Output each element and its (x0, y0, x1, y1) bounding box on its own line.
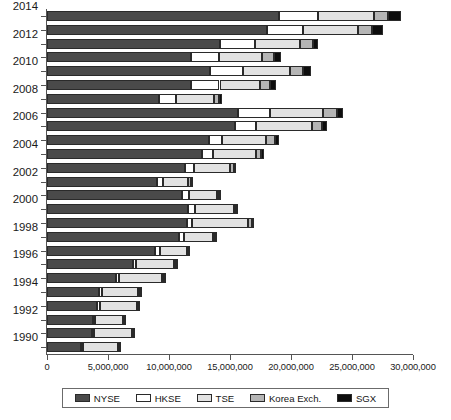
bar-segment-sgx (322, 121, 327, 131)
y-axis-label-1990: 1990 (13, 331, 38, 343)
bar-segment-hkse (279, 11, 318, 21)
bar-segment-sgx (215, 232, 217, 242)
x-tick (291, 355, 292, 360)
legend-swatch-icon (75, 394, 90, 402)
bar-segment-sgx (119, 342, 121, 352)
bar-segment-tse (194, 163, 230, 173)
bar-segment-nyse (47, 177, 157, 187)
bar-segment-sgx (313, 39, 318, 49)
y-tick (41, 251, 46, 252)
bar-segment-tse (195, 204, 234, 214)
bar-segment-nyse (47, 66, 210, 76)
bar-segment-sgx (372, 25, 383, 35)
bar-segment-tse (94, 328, 132, 338)
legend-item-tse[interactable]: TSE (197, 393, 235, 404)
bar-segment-hkse (220, 39, 255, 49)
bar-segment-nyse (47, 218, 187, 228)
y-axis-label-2008: 2008 (13, 83, 38, 95)
bar-segment-korea-exch (260, 80, 270, 90)
bar-segment-sgx (337, 108, 344, 118)
y-axis-label-1998: 1998 (13, 221, 38, 233)
x-axis-tick-label: 0 (44, 362, 49, 372)
y-tick (41, 306, 46, 307)
bar-segment-nyse (47, 301, 97, 311)
y-tick (41, 30, 46, 31)
bar-segment-nyse (47, 259, 133, 269)
bar-segment-sgx (176, 259, 178, 269)
bar-segment-nyse (47, 149, 202, 159)
stacked-bar-chart: 2014201220102008200620042002200019981996… (0, 0, 451, 420)
bar-segment-tse (119, 273, 162, 283)
bar-segment-sgx (138, 301, 140, 311)
bar-segment-sgx (140, 287, 142, 297)
bar-segment-korea-exch (374, 11, 389, 21)
bar-segment-nyse (47, 11, 279, 21)
bar-segment-sgx (252, 218, 254, 228)
bar-segment-tse (100, 301, 136, 311)
y-tick (41, 168, 46, 169)
legend-item-sgx[interactable]: SGX (337, 393, 376, 404)
bar-segment-nyse (47, 273, 116, 283)
y-tick (41, 223, 46, 224)
bar-segment-nyse (47, 25, 267, 35)
x-tick (352, 355, 353, 360)
bar-segment-tse (163, 177, 188, 187)
bar-segment-korea-exch (358, 25, 372, 35)
bar-segment-hkse (210, 66, 243, 76)
bar-segment-hkse (235, 121, 256, 131)
bar-segment-tse (270, 108, 323, 118)
bar-segment-tse (243, 66, 290, 76)
bar-segment-sgx (236, 204, 238, 214)
legend-item-korea-exch[interactable]: Korea Exch. (250, 393, 321, 404)
y-tick (41, 209, 46, 210)
x-tick (47, 355, 48, 360)
x-axis-tick-label: 25,000,000 (329, 362, 375, 372)
chart-legend: NYSEHKSETSEKorea Exch.SGX (62, 388, 389, 408)
legend-label: Korea Exch. (269, 393, 321, 404)
y-tick (41, 320, 46, 321)
y-tick (41, 113, 46, 114)
y-tick (41, 237, 46, 238)
y-tick (41, 57, 46, 58)
bar-segment-nyse (47, 108, 238, 118)
bar-segment-hkse (188, 204, 196, 214)
bar-segment-sgx (164, 273, 166, 283)
bar-segment-korea-exch (312, 121, 322, 131)
bar-segment-tse (95, 315, 123, 325)
y-tick (41, 71, 46, 72)
bar-segment-tse (192, 218, 248, 228)
x-axis-tick-label: 30,000,000 (390, 362, 436, 372)
bar-segment-korea-exch (266, 135, 275, 145)
bar-segment-tse (255, 39, 300, 49)
bar-segment-korea-exch (262, 52, 274, 62)
y-axis-labels: 2014201220102008200620042002200019981996… (0, 0, 38, 345)
bar-segment-hkse (159, 94, 175, 104)
plot-area (47, 9, 413, 354)
bar-segment-tse (83, 342, 118, 352)
legend-item-hkse[interactable]: HKSE (136, 393, 181, 404)
y-tick (41, 44, 46, 45)
y-axis-label-2000: 2000 (13, 193, 38, 205)
y-tick (41, 154, 46, 155)
bar-segment-tse (189, 190, 217, 200)
bar-segment-nyse (47, 315, 93, 325)
bar-segment-tse (220, 80, 260, 90)
bar-segment-nyse (47, 39, 220, 49)
bar-segment-sgx (133, 328, 135, 338)
bar-segment-tse (176, 94, 214, 104)
legend-swatch-icon (197, 394, 212, 402)
bar-segment-tse (303, 25, 358, 35)
x-tick (108, 355, 109, 360)
bar-segment-tse (222, 135, 266, 145)
bar-segment-sgx (219, 190, 221, 200)
y-axis-label-1996: 1996 (13, 248, 38, 260)
y-tick (41, 278, 46, 279)
y-axis-label-2004: 2004 (13, 138, 38, 150)
y-tick (41, 347, 46, 348)
bar-segment-nyse (47, 135, 209, 145)
legend-item-nyse[interactable]: NYSE (75, 393, 120, 404)
y-axis-label-2006: 2006 (13, 110, 38, 122)
legend-swatch-icon (250, 394, 265, 402)
legend-label: SGX (356, 393, 376, 404)
bar-segment-tse (136, 259, 174, 269)
